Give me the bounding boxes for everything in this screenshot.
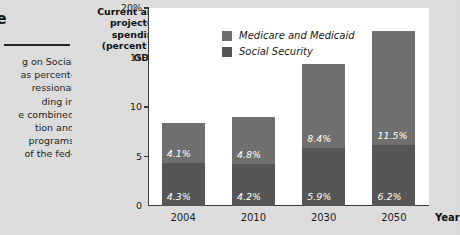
article-body-line: g on Social	[0, 55, 72, 68]
bar-segment-social-security: 6.2%	[372, 145, 415, 206]
chart-legend: Medicare and Medicaid Social Security	[222, 30, 412, 62]
article-body-text: g on Social as percent- ressional ding i…	[0, 55, 72, 161]
y-axis-tick-mark	[144, 106, 149, 108]
bar-value-label: 4.1%	[167, 148, 191, 159]
article-heading: f the	[0, 10, 72, 28]
bar-segment-medicare-medicaid: 4.1%	[162, 123, 205, 164]
y-axis-tick-label: 0	[112, 201, 142, 211]
legend-label: Social Security	[239, 46, 313, 57]
bar-segment-social-security: 4.2%	[232, 164, 275, 206]
x-axis-tick-label: 2004	[153, 212, 213, 223]
x-axis-tick-label: 2050	[364, 212, 424, 223]
y-axis-tick-label: 5	[112, 152, 142, 162]
y-axis-tick-label: 10	[112, 102, 142, 112]
y-axis-tick-mark	[144, 156, 149, 158]
bar-value-label: 4.8%	[237, 149, 261, 160]
article-divider	[4, 44, 70, 46]
y-axis-tick-mark	[144, 7, 149, 9]
article-body-line: of the fed-	[0, 147, 72, 160]
bar-value-label: 4.3%	[167, 191, 191, 202]
bar-value-label: 11.5%	[377, 130, 407, 141]
article-column: f the g on Social as percent- ressional …	[0, 0, 72, 235]
y-axis-tick-label: 15	[112, 53, 142, 63]
bar-segment-social-security: 5.9%	[302, 148, 345, 206]
article-body-line: e combined	[0, 108, 72, 121]
x-axis-tick-label: 2010	[223, 212, 283, 223]
legend-swatch-icon	[222, 47, 232, 57]
bar-group: 8.4%5.9%	[302, 64, 345, 206]
bar-group: 4.1%4.3%	[162, 123, 205, 206]
x-axis-tick-label: 2030	[294, 212, 354, 223]
bar-value-label: 5.9%	[307, 191, 331, 202]
y-axis-tick-label: 20%	[112, 3, 142, 13]
legend-swatch-icon	[222, 31, 232, 41]
chart-figure: Current and projected spending (percent …	[72, 0, 455, 235]
article-body-line: programs	[0, 134, 72, 147]
x-axis-title: Year	[435, 212, 460, 223]
article-body-line: ding in	[0, 95, 72, 108]
article-body-line: ressional	[0, 81, 72, 94]
legend-label: Medicare and Medicaid	[239, 30, 355, 41]
bar-value-label: 6.2%	[377, 191, 401, 202]
bar-value-label: 8.4%	[307, 133, 331, 144]
y-axis-tick-mark	[144, 57, 149, 59]
legend-item-medicare-medicaid: Medicare and Medicaid	[222, 30, 412, 41]
bar-segment-medicare-medicaid: 8.4%	[302, 64, 345, 147]
bar-group: 4.8%4.2%	[232, 117, 275, 206]
bar-value-label: 4.2%	[237, 191, 261, 202]
bar-segment-social-security: 4.3%	[162, 163, 205, 206]
article-body-line: tion and	[0, 121, 72, 134]
legend-item-social-security: Social Security	[222, 46, 412, 57]
bar-segment-medicare-medicaid: 4.8%	[232, 117, 275, 165]
article-body-line: as percent-	[0, 68, 72, 81]
